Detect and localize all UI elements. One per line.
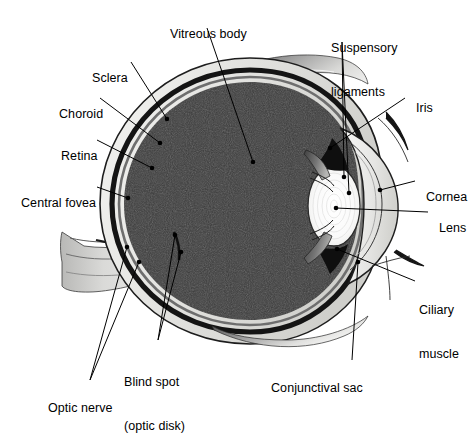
label-vitreous-body: Vitreous body bbox=[163, 12, 247, 41]
label-blind-spot-line1: Blind spot bbox=[124, 375, 185, 390]
label-cornea-text: Cornea bbox=[426, 190, 467, 204]
label-vitreous-body-text: Vitreous body bbox=[170, 27, 247, 41]
label-choroid: Choroid bbox=[52, 92, 103, 121]
endpoint-central-fovea bbox=[126, 196, 131, 201]
label-suspensory-ligaments-line1: Suspensory bbox=[331, 41, 398, 56]
label-sclera: Sclera bbox=[85, 56, 128, 85]
endpoint-blind-spot-a bbox=[173, 233, 178, 238]
endpoint-suspensory-a bbox=[342, 175, 347, 180]
endpoint-cornea bbox=[378, 188, 383, 193]
label-lens-text: Lens bbox=[439, 221, 466, 235]
endpoint-optic-nerve-b bbox=[137, 260, 142, 265]
endpoint-iris bbox=[328, 146, 333, 151]
endpoint-lens bbox=[334, 206, 339, 211]
label-ciliary-muscle-line2: muscle bbox=[419, 347, 459, 362]
endpoint-vitreous-body bbox=[251, 160, 256, 165]
lens-region bbox=[308, 166, 360, 246]
label-choroid-text: Choroid bbox=[59, 107, 103, 121]
endpoint-optic-nerve-a bbox=[125, 245, 130, 250]
label-conjunctival-sac: Conjunctival sac bbox=[264, 366, 363, 395]
label-blind-spot: Blind spot (optic disk) bbox=[124, 346, 185, 437]
label-iris-text: Iris bbox=[416, 101, 433, 115]
label-ciliary-muscle: Ciliary muscle bbox=[419, 274, 459, 376]
label-sclera-text: Sclera bbox=[92, 71, 128, 85]
label-iris: Iris bbox=[409, 86, 433, 115]
label-central-fovea: Central fovea bbox=[14, 181, 96, 210]
label-optic-nerve-text: Optic nerve bbox=[48, 401, 112, 415]
label-retina: Retina bbox=[54, 134, 97, 163]
endpoint-choroid bbox=[158, 141, 163, 146]
endpoint-ciliary-muscle bbox=[335, 247, 340, 252]
label-cornea: Cornea bbox=[419, 175, 467, 204]
label-lens: Lens bbox=[432, 206, 466, 235]
endpoint-blind-spot-b bbox=[179, 250, 184, 255]
label-conjunctival-sac-text: Conjunctival sac bbox=[271, 381, 363, 395]
endpoint-sclera bbox=[165, 117, 170, 122]
endpoint-retina bbox=[150, 166, 155, 171]
label-suspensory-ligaments-line2: ligaments bbox=[331, 85, 398, 100]
label-central-fovea-text: Central fovea bbox=[21, 196, 96, 210]
label-ciliary-muscle-line1: Ciliary bbox=[419, 303, 459, 318]
label-blind-spot-line2: (optic disk) bbox=[124, 419, 185, 434]
label-optic-nerve: Optic nerve bbox=[41, 386, 113, 415]
label-suspensory-ligaments: Suspensory ligaments bbox=[331, 12, 398, 114]
label-retina-text: Retina bbox=[61, 149, 97, 163]
endpoint-conjunctival-sac bbox=[356, 260, 361, 265]
endpoint-suspensory-b bbox=[347, 191, 352, 196]
